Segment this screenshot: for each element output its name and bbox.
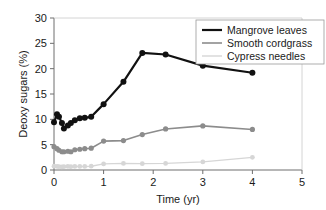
legend-label: Cypress needles	[227, 50, 305, 62]
data-point	[101, 139, 106, 144]
data-point	[101, 101, 107, 107]
deoxy-sugars-line-chart: 012345 051015202530 Mangrove leavesSmoot…	[0, 0, 326, 210]
x-tick-label: 5	[299, 176, 305, 188]
y-tick-label: 30	[35, 12, 47, 24]
data-point	[89, 164, 94, 169]
x-axis-ticks	[54, 170, 302, 174]
data-point	[77, 147, 82, 152]
x-axis-tick-labels: 012345	[51, 176, 305, 188]
x-tick-label: 1	[101, 176, 107, 188]
data-point	[250, 155, 255, 160]
chart-container: 012345 051015202530 Mangrove leavesSmoot…	[0, 0, 326, 210]
data-point	[139, 50, 145, 56]
data-series-group	[51, 50, 255, 169]
data-point	[59, 120, 65, 126]
y-axis-tick-labels: 051015202530	[35, 12, 47, 176]
data-point	[88, 114, 94, 120]
data-point	[140, 132, 145, 137]
data-point	[82, 115, 88, 121]
data-point	[200, 123, 205, 128]
data-point	[72, 147, 77, 152]
x-tick-label: 4	[249, 176, 255, 188]
data-point	[89, 146, 94, 151]
legend-label: Mangrove leaves	[227, 24, 307, 36]
x-axis-title: Time (yr)	[156, 193, 200, 205]
data-point	[200, 159, 205, 164]
y-tick-label: 15	[35, 88, 47, 100]
data-point	[121, 161, 126, 166]
series-smooth-cordgrass	[51, 123, 255, 154]
data-point	[140, 161, 145, 166]
y-tick-label: 5	[41, 139, 47, 151]
x-tick-label: 3	[200, 176, 206, 188]
data-point	[250, 127, 255, 132]
x-tick-label: 2	[150, 176, 156, 188]
data-point	[51, 119, 57, 125]
data-point	[77, 164, 82, 169]
data-point	[56, 114, 62, 120]
data-point	[82, 146, 87, 151]
y-tick-label: 25	[35, 37, 47, 49]
data-point	[72, 164, 77, 169]
series-cypress-needles	[52, 155, 255, 169]
data-point	[249, 70, 255, 76]
data-point	[163, 161, 168, 166]
data-point	[163, 51, 169, 57]
data-point	[82, 164, 87, 169]
legend-label: Smooth cordgrass	[227, 37, 312, 49]
x-tick-label: 0	[51, 176, 57, 188]
chart-legend: Mangrove leavesSmooth cordgrassCypress n…	[196, 20, 324, 64]
y-tick-label: 10	[35, 113, 47, 125]
data-point	[163, 126, 168, 131]
data-point	[120, 79, 126, 85]
y-tick-label: 0	[41, 164, 47, 176]
y-axis-title: Deoxy sugars (%)	[17, 50, 29, 137]
data-point	[101, 162, 106, 167]
y-tick-label: 20	[35, 63, 47, 75]
data-point	[121, 138, 126, 143]
